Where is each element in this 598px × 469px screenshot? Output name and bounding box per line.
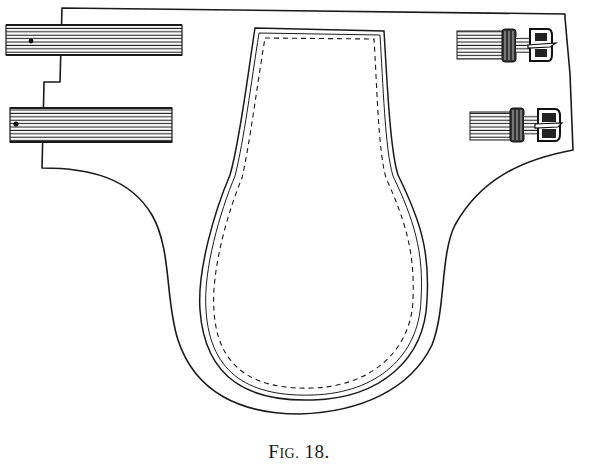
caption-number: 18.	[304, 441, 329, 462]
inner-pad-outline	[200, 28, 428, 400]
lower-right-buckle	[470, 108, 562, 142]
outer-panel-outline	[42, 8, 573, 414]
rivet-icon	[29, 39, 34, 44]
inner-pad-outline-second	[206, 33, 422, 395]
upper-right-buckle	[457, 29, 556, 62]
upper-left-strap	[6, 25, 182, 55]
figure-caption: FIG. 18.	[0, 441, 598, 463]
rivet-icon	[13, 121, 18, 126]
caption-prefix: IG.	[279, 446, 299, 461]
figure-illustration	[0, 0, 598, 469]
caption-initial: F	[268, 441, 279, 462]
lower-left-strap	[10, 108, 172, 142]
